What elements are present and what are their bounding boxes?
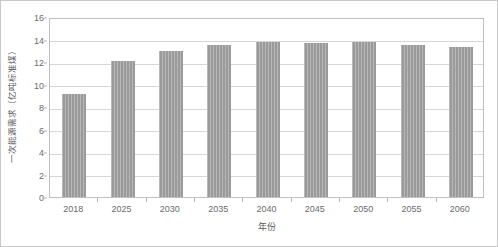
bar[interactable]: [449, 47, 473, 197]
x-axis-tick-marks: [49, 198, 484, 203]
x-axis-tick-label: 2040: [256, 204, 276, 214]
x-axis-tick-mark: [339, 198, 340, 202]
bar[interactable]: [256, 42, 280, 197]
y-axis-tick-mark: [44, 130, 47, 131]
bar[interactable]: [304, 43, 328, 197]
x-axis-tick-mark: [97, 198, 98, 202]
x-axis-tick-label: 2045: [305, 204, 325, 214]
y-axis-tick-label: 14: [34, 36, 44, 46]
y-axis-tick-labels: 0246810121416: [19, 13, 47, 203]
y-axis-tick-mark: [44, 85, 47, 86]
y-axis-tick-mark: [44, 40, 47, 41]
y-axis-tick-label: 16: [34, 13, 44, 23]
y-axis-tick-mark: [44, 108, 47, 109]
plot-area: [49, 18, 484, 198]
x-axis-tick-label: 2060: [450, 204, 470, 214]
bar-slot: [304, 19, 328, 197]
bar-series: [50, 19, 483, 197]
bar[interactable]: [207, 45, 231, 197]
bar[interactable]: [62, 94, 86, 198]
bar-slot: [207, 19, 231, 197]
x-axis-tick-mark: [146, 198, 147, 202]
bar-slot: [449, 19, 473, 197]
bar[interactable]: [401, 45, 425, 197]
y-axis-title: 一次能源需求（亿吨标准煤）: [1, 1, 19, 206]
x-axis-tick-label: 2035: [208, 204, 228, 214]
y-axis-tick-mark: [44, 63, 47, 64]
bar[interactable]: [159, 51, 183, 197]
x-axis-tick-label: 2050: [353, 204, 373, 214]
bar-slot: [352, 19, 376, 197]
x-axis-tick-mark: [436, 198, 437, 202]
x-axis-tick-mark: [291, 198, 292, 202]
y-axis-tick-mark: [44, 153, 47, 154]
bar[interactable]: [111, 61, 135, 197]
y-axis-tick-mark: [44, 18, 47, 19]
x-axis-tick-label: 2055: [401, 204, 421, 214]
y-axis-tick-label: 12: [34, 58, 44, 68]
y-axis-tick-mark: [44, 198, 47, 199]
bar-slot: [401, 19, 425, 197]
y-axis-tick-mark: [44, 175, 47, 176]
bar-slot: [62, 19, 86, 197]
bar-slot: [159, 19, 183, 197]
bar-slot: [111, 19, 135, 197]
x-axis-tick-label: 2018: [63, 204, 83, 214]
x-axis-tick-label: 2025: [111, 204, 131, 214]
bar[interactable]: [352, 42, 376, 197]
y-axis-title-text: 一次能源需求（亿吨标准煤）: [4, 45, 16, 162]
x-axis-tick-label: 2030: [160, 204, 180, 214]
x-axis-tick-labels: 201820252030203520402045205020552060: [49, 204, 484, 218]
x-axis-tick-mark: [242, 198, 243, 202]
x-axis-title: 年份: [49, 220, 484, 233]
y-axis-tick-label: 10: [34, 81, 44, 91]
x-axis-tick-mark: [387, 198, 388, 202]
x-axis-tick-mark: [194, 198, 195, 202]
bar-chart-figure: 一次能源需求（亿吨标准煤） 0246810121416 201820252030…: [0, 0, 498, 247]
bar-slot: [256, 19, 280, 197]
